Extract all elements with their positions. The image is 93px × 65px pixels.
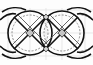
knot-pattern-graphic <box>0 0 93 65</box>
knot-diagram <box>0 0 93 65</box>
